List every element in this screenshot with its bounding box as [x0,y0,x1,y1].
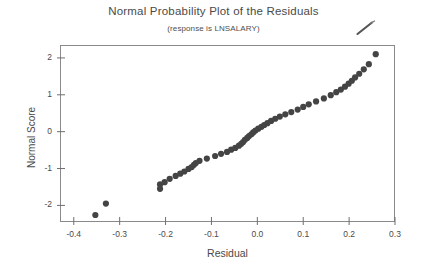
data-point: -0.126, -0.79 [196,158,202,164]
data-point: 0.145, 0.9 [321,95,327,101]
data-point: -0.202, -1.37 [162,179,168,185]
data-point: -0.33, -1.95 [103,200,109,206]
x-tick-label: 0.0 [242,229,272,239]
data-point: 0.1, 0.67 [300,104,306,110]
data-point: -0.191, -1.28 [167,176,173,182]
y-axis-label: Normal Score [26,106,37,167]
data-point: 0.258, 2.1 [373,51,379,57]
data-point: -0.11, -0.73 [204,155,210,161]
y-tick-label: 0 [26,126,52,136]
y-tick-label: 1 [26,89,52,99]
data-point: 0.232, 1.69 [361,66,367,72]
data-point: 0.074, 0.53 [288,109,294,115]
data-point: 0.16, 0.99 [328,92,334,98]
data-point: -0.079, -0.6 [218,151,224,157]
x-tick-label: -0.4 [59,229,89,239]
data-point: -0.092, -0.66 [212,153,218,159]
x-tick-label: -0.1 [196,229,226,239]
data-point: 0.049, 0.41 [277,113,283,119]
x-tick-label: -0.3 [105,229,135,239]
data-point: 0.222, 1.57 [356,71,362,77]
data-point: 0.088, 0.6 [295,106,301,112]
y-tick-label: 2 [26,52,52,62]
x-tick-label: 0.2 [334,229,364,239]
data-point: -0.353, -2.26 [92,212,98,218]
data-point: 0.112, 0.74 [306,101,312,107]
data-point: 0.243, 1.83 [366,61,372,67]
data-point: 0.128, 0.82 [313,98,319,104]
chart-canvas: Normal Probability Plot of the Residuals… [0,0,427,273]
y-tick-label: -1 [26,163,52,173]
x-axis-label: Residual [60,247,395,259]
y-tick-label: -2 [26,199,52,209]
data-point: 0.061, 0.47 [282,111,288,117]
x-tick-label: 0.3 [380,229,410,239]
x-tick-label: 0.1 [288,229,318,239]
x-tick-label: -0.2 [151,229,181,239]
